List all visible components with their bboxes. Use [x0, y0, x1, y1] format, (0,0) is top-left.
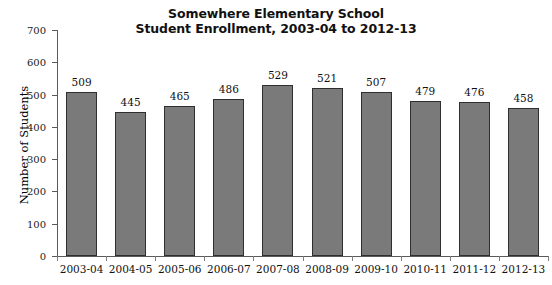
y-axis-tick-label: 200 [0, 186, 46, 197]
x-axis-tick-label: 2005-06 [152, 263, 208, 275]
y-axis-tick [52, 224, 57, 225]
x-axis-tick [303, 256, 304, 261]
bar-value-label: 529 [253, 69, 303, 81]
y-axis-tick [52, 62, 57, 63]
x-axis-tick-label: 2004-05 [103, 263, 159, 275]
x-axis-tick [548, 256, 549, 261]
y-axis-tick [52, 30, 57, 31]
y-axis-tick [52, 127, 57, 128]
y-axis-tick [52, 95, 57, 96]
y-axis-tick-label: 0 [0, 251, 46, 262]
x-axis-tick [155, 256, 156, 261]
x-axis-tick [57, 256, 58, 261]
bar [115, 112, 146, 256]
bar-value-label: 445 [106, 96, 156, 108]
y-axis-tick-label: 600 [0, 57, 46, 68]
x-axis-tick [253, 256, 254, 261]
bar [508, 108, 539, 256]
bar [410, 101, 441, 256]
x-axis-tick-label: 2009-10 [348, 263, 404, 275]
y-axis-tick-label: 100 [0, 218, 46, 229]
bar-value-label: 476 [449, 86, 499, 98]
bar [262, 85, 293, 256]
chart-title-line1: Somewhere Elementary School [168, 6, 384, 21]
y-axis-line [57, 30, 58, 257]
bar [312, 88, 343, 256]
bar-value-label: 458 [498, 92, 548, 104]
x-axis-tick [204, 256, 205, 261]
bar-value-label: 465 [155, 90, 205, 102]
x-axis-tick-label: 2003-04 [54, 263, 110, 275]
x-axis-tick [106, 256, 107, 261]
bar-value-label: 486 [204, 83, 254, 95]
y-axis-tick-label: 300 [0, 154, 46, 165]
bar [459, 102, 490, 256]
y-axis-tick [52, 191, 57, 192]
x-axis-tick-label: 2010-11 [397, 263, 453, 275]
chart-title: Somewhere Elementary School Student Enro… [0, 6, 552, 36]
bar-value-label: 507 [351, 76, 401, 88]
x-axis-tick-label: 2011-12 [446, 263, 502, 275]
bar-value-label: 509 [57, 76, 107, 88]
x-axis-tick-label: 2012-13 [495, 263, 551, 275]
bar [66, 92, 97, 256]
x-axis-tick [352, 256, 353, 261]
x-axis-tick-label: 2007-08 [250, 263, 306, 275]
y-axis-title: Number of Students [17, 60, 31, 230]
y-axis-tick-label: 700 [0, 25, 46, 36]
bar [213, 99, 244, 256]
y-axis-tick-label: 400 [0, 121, 46, 132]
x-axis-tick-label: 2008-09 [299, 263, 355, 275]
chart-title-line2: Student Enrollment, 2003-04 to 2012-13 [0, 21, 552, 36]
x-axis-tick [450, 256, 451, 261]
bar [164, 106, 195, 256]
bar-value-label: 521 [302, 72, 352, 84]
x-axis-tick [401, 256, 402, 261]
bar-value-label: 479 [400, 85, 450, 97]
y-axis-tick-label: 500 [0, 89, 46, 100]
x-axis-tick-label: 2006-07 [201, 263, 257, 275]
bar [361, 92, 392, 256]
y-axis-tick [52, 159, 57, 160]
bar-chart: Somewhere Elementary School Student Enro… [0, 0, 552, 285]
x-axis-tick [499, 256, 500, 261]
